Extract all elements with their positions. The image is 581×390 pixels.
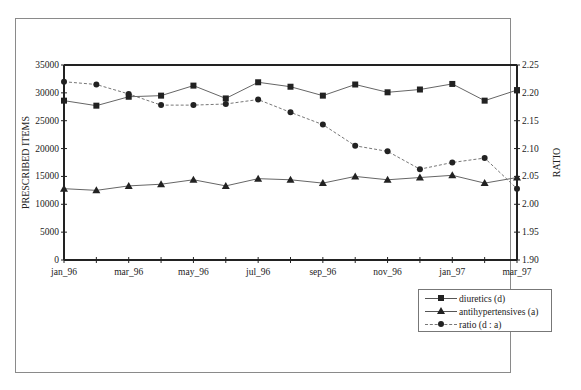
legend-label: antihypertensives (a) bbox=[459, 307, 538, 317]
right-axis-title: RATIO bbox=[551, 148, 562, 177]
circle-marker-icon bbox=[288, 109, 294, 115]
left-axis-title: PRESCRIBED ITEMS bbox=[20, 116, 31, 209]
square-marker-icon bbox=[320, 93, 326, 99]
square-marker-icon bbox=[385, 89, 391, 95]
square-marker-icon bbox=[93, 103, 99, 109]
y-tick-label: 35000 bbox=[35, 60, 59, 70]
triangle-marker-icon bbox=[513, 174, 521, 181]
circle-marker-icon bbox=[190, 102, 196, 108]
x-tick-label: mar_96 bbox=[114, 267, 143, 277]
circle-marker-icon bbox=[126, 91, 132, 97]
square-marker-icon bbox=[158, 93, 164, 99]
circle-marker-icon bbox=[449, 160, 455, 166]
y2-tick-label: 2.15 bbox=[522, 116, 539, 126]
triangle-marker-icon bbox=[189, 176, 197, 183]
y2-tick-label: 1.90 bbox=[522, 255, 539, 265]
y-tick-label: 5000 bbox=[40, 227, 59, 237]
x-tick-label: jan_96 bbox=[50, 267, 77, 277]
y-tick-label: 10000 bbox=[35, 199, 59, 209]
y-tick-label: 0 bbox=[54, 255, 59, 265]
circle-marker-icon bbox=[158, 102, 164, 108]
y2-tick-label: 1.95 bbox=[522, 227, 539, 237]
x-tick-label: nov_96 bbox=[373, 267, 402, 277]
x-tick-label: jul_96 bbox=[245, 267, 271, 277]
square-marker-icon bbox=[190, 83, 196, 89]
square-marker-icon bbox=[514, 87, 520, 93]
circle-marker-icon bbox=[320, 122, 326, 128]
y2-tick-label: 2.20 bbox=[522, 88, 539, 98]
circle-marker-icon bbox=[482, 155, 488, 161]
y2-tick-label: 2.10 bbox=[522, 144, 539, 154]
square-marker-icon bbox=[449, 81, 455, 87]
square-marker-icon bbox=[352, 82, 358, 88]
circle-marker-icon bbox=[223, 101, 229, 107]
x-tick-label: may_96 bbox=[178, 267, 209, 277]
square-marker-icon bbox=[482, 98, 488, 104]
legend-item-antihypertensives: antihypertensives (a) bbox=[419, 305, 551, 318]
circle-marker-icon bbox=[514, 186, 520, 192]
triangle-marker-icon bbox=[60, 185, 68, 192]
square-marker-icon bbox=[61, 98, 67, 104]
square-marker-icon bbox=[223, 95, 229, 101]
circle-marker-icon bbox=[61, 79, 67, 85]
circle-marker-icon bbox=[352, 143, 358, 149]
triangle-marker-icon bbox=[351, 172, 359, 179]
legend-label: diuretics (d) bbox=[459, 294, 505, 304]
y2-tick-label: 2.25 bbox=[522, 60, 539, 70]
square-marker-icon bbox=[288, 84, 294, 90]
y-tick-label: 25000 bbox=[35, 116, 59, 126]
triangle-marker-icon bbox=[425, 305, 457, 318]
y-tick-label: 20000 bbox=[35, 144, 59, 154]
x-tick-label: jan_97 bbox=[438, 267, 465, 277]
square-marker-icon bbox=[255, 79, 261, 85]
legend-item-diuretics: diuretics (d) bbox=[419, 292, 551, 305]
y-tick-label: 30000 bbox=[35, 88, 59, 98]
triangle-marker-icon bbox=[254, 175, 262, 182]
square-marker-icon bbox=[417, 87, 423, 93]
triangle-marker-icon bbox=[448, 171, 456, 178]
legend-label: ratio (d : a) bbox=[459, 320, 501, 330]
legend-item-ratio: ratio (d : a) bbox=[419, 318, 551, 331]
y-tick-label: 15000 bbox=[35, 171, 59, 181]
circle-marker-icon bbox=[93, 82, 99, 88]
circle-marker-icon bbox=[417, 166, 423, 172]
circle-marker-icon bbox=[255, 97, 261, 103]
x-tick-label: sep_96 bbox=[309, 267, 336, 277]
series-line bbox=[64, 82, 517, 189]
square-marker-icon bbox=[425, 292, 457, 305]
circle-marker-icon bbox=[425, 318, 457, 331]
y2-tick-label: 2.05 bbox=[522, 171, 539, 181]
x-tick-label: mar_97 bbox=[502, 267, 531, 277]
y2-tick-label: 2.00 bbox=[522, 199, 539, 209]
circle-marker-icon bbox=[385, 148, 391, 154]
legend: diuretics (d) antihypertensives (a) rati… bbox=[418, 289, 552, 332]
